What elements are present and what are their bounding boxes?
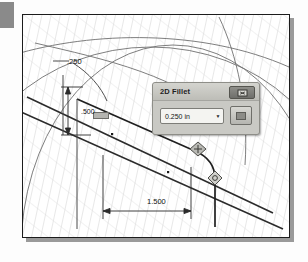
dimension-label-horizontal-length[interactable]: 1.500 xyxy=(147,197,166,206)
chevron-down-icon[interactable]: ▼ xyxy=(213,114,223,119)
page-margin-tab xyxy=(0,2,14,28)
apply-button[interactable] xyxy=(230,106,252,125)
apply-icon xyxy=(236,112,246,120)
constraint-glyph-tangent-icon[interactable] xyxy=(189,141,207,157)
fillet-radius-input[interactable]: 0.250 in ▼ xyxy=(160,108,224,124)
close-icon xyxy=(237,89,248,97)
dimension-label-fillet-radius[interactable]: .250 xyxy=(67,57,82,66)
fillet-dialog[interactable]: 2D Fillet 0.250 in ▼ xyxy=(152,82,260,135)
fillet-radius-value: 0.250 in xyxy=(161,113,213,120)
screenshot-root: .250 .500 1.500 2D Fillet 0.250 in ▼ xyxy=(0,0,308,262)
dialog-close-button[interactable] xyxy=(229,86,255,99)
dialog-title-bar[interactable]: 2D Fillet xyxy=(153,83,259,101)
dialog-body: 0.250 in ▼ xyxy=(153,100,259,134)
dialog-title: 2D Fillet xyxy=(160,87,190,96)
selected-dimension-highlight xyxy=(93,112,109,119)
dimension-label-vertical-offset[interactable]: .500 xyxy=(81,108,95,115)
constraint-glyph-coincident-icon[interactable] xyxy=(207,170,223,186)
